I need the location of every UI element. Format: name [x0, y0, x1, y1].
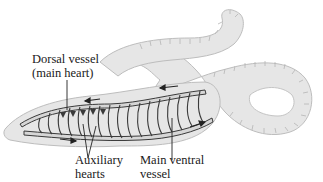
earthworm-diagram: Dorsal vessel (main heart) Auxiliary hea… — [0, 0, 323, 182]
label-auxiliary-hearts: Auxiliary hearts — [75, 153, 123, 181]
label-main-ventral-vessel: Main ventral vessel — [140, 153, 204, 181]
label-dorsal-vessel: Dorsal vessel (main heart) — [32, 52, 99, 80]
